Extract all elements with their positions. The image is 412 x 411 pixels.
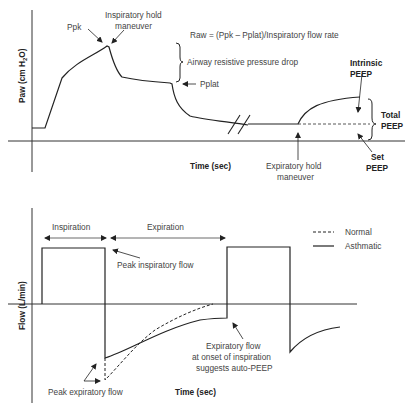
exp-hold-label-2: maneuver xyxy=(277,172,314,182)
flow-time-panel: Inspiration Expiration Peak inspiratory … xyxy=(8,208,381,403)
inspiration-label: Inspiration xyxy=(52,222,91,232)
flow-y-axis-label: Flow (L/min) xyxy=(17,281,27,330)
peak-insp-flow-label: Peak inspiratory flow xyxy=(117,260,195,270)
pressure-curve-expiratory-hold xyxy=(248,97,360,124)
insp-hold-arrow xyxy=(112,30,124,43)
legend-asthmatic-label: Asthmatic xyxy=(345,241,381,251)
pressure-y-axis-label: Paw (cm H2O) xyxy=(17,48,28,103)
exp-hold-label-1: Expiratory hold xyxy=(266,161,322,171)
set-peep-label-2: PEEP xyxy=(366,163,389,173)
peak-exp-flow-arrow-1 xyxy=(84,364,96,381)
legend: Normal Asthmatic xyxy=(313,227,381,251)
airway-drop-label: Airway resistive pressure drop xyxy=(187,57,299,67)
set-peep-label-1: Set xyxy=(371,152,384,162)
pplat-label: Pplat xyxy=(200,79,220,89)
intrinsic-peep-arrow xyxy=(358,74,362,112)
exp-flow-label-3: suggests auto-PEEP xyxy=(196,363,273,373)
insp-hold-label-1: Inspiratory hold xyxy=(105,10,162,20)
total-peep-label-1: Total xyxy=(381,110,400,120)
intrinsic-peep-label-2: PEEP xyxy=(350,69,373,79)
peak-exp-flow-label: Peak expiratory flow xyxy=(48,387,124,397)
ppk-label: Ppk xyxy=(67,22,82,32)
total-peep-brace xyxy=(368,99,376,140)
exp-flow-auto-peep-arrow xyxy=(233,323,243,339)
flow-x-axis-label: Time (sec) xyxy=(175,387,216,397)
expiration-label: Expiration xyxy=(147,222,184,232)
intrinsic-peep-label-1: Intrinsic xyxy=(350,58,383,68)
insp-hold-label-2: maneuver xyxy=(115,21,152,31)
exp-flow-label-2: at onset of inspiration xyxy=(192,352,271,362)
legend-normal-label: Normal xyxy=(345,227,372,237)
set-peep-arrow xyxy=(358,134,372,152)
axis-break-mark xyxy=(228,115,240,134)
raw-formula-label: Raw = (Ppk – Pplat)/Inspiratory flow rat… xyxy=(190,30,339,40)
total-peep-label-2: PEEP xyxy=(381,121,404,131)
airway-resistive-brace xyxy=(176,43,183,82)
ppk-arrow xyxy=(88,29,102,42)
ventilator-waveform-diagram: Ppk Inspiratory hold maneuver Raw = (Ppk… xyxy=(0,0,412,411)
exp-flow-label-1: Expiratory flow xyxy=(206,341,261,351)
pressure-time-panel: Ppk Inspiratory hold maneuver Raw = (Ppk… xyxy=(8,10,405,182)
peak-insp-flow-arrow xyxy=(113,250,140,258)
pressure-x-axis-label: Time (sec) xyxy=(190,161,231,171)
